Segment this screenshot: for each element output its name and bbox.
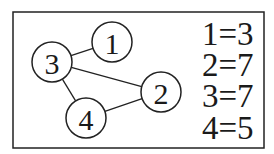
edge-3-4 xyxy=(62,79,75,101)
node-3: 3 xyxy=(32,42,72,82)
node-label: 1 xyxy=(105,27,120,60)
legend-item-3: 3=7 xyxy=(202,78,254,114)
edge-3-2 xyxy=(71,67,141,86)
node-2: 2 xyxy=(141,72,181,112)
legend-item-4: 4=5 xyxy=(202,110,254,146)
legend: 1=3 2=7 3=7 4=5 xyxy=(202,16,254,146)
node-label: 3 xyxy=(45,47,60,80)
node-1: 1 xyxy=(92,22,132,62)
nodes-group: 1234 xyxy=(32,22,181,138)
edge-4-2 xyxy=(105,99,142,112)
node-label: 2 xyxy=(154,77,169,110)
edge-3-1 xyxy=(71,48,93,55)
node-label: 4 xyxy=(79,103,94,136)
graph-diagram: 1234 1=3 2=7 3=7 4=5 xyxy=(0,0,274,154)
node-4: 4 xyxy=(66,98,106,138)
